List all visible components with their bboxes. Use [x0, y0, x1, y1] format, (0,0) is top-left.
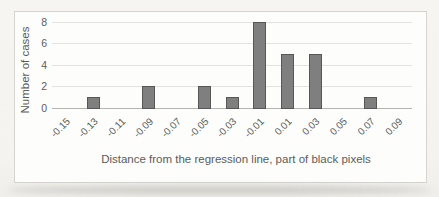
histogram-figure: 02468 -0.15-0.13-0.11-0.09-0.07-0.05-0.0…: [14, 11, 427, 183]
x-tick-label: 0.01: [272, 115, 294, 137]
x-tick-label: 0.09: [383, 115, 405, 137]
bar: [226, 97, 238, 108]
x-tick-label: -0.03: [215, 115, 239, 139]
document-page: 02468 -0.15-0.13-0.11-0.09-0.07-0.05-0.0…: [0, 0, 439, 197]
bar: [281, 54, 293, 108]
bar-chart: 02468 -0.15-0.13-0.11-0.09-0.07-0.05-0.0…: [15, 12, 426, 182]
y-axis-tick-labels: 02468: [41, 16, 47, 114]
bar: [143, 87, 155, 109]
x-tick-label: -0.09: [131, 115, 155, 139]
y-tick-label: 8: [41, 16, 47, 28]
x-tick-label: -0.01: [242, 115, 266, 139]
bar: [88, 97, 100, 108]
bar: [365, 97, 377, 108]
x-tick-label: 0.03: [300, 115, 322, 137]
scan-shadow: [8, 186, 431, 194]
y-tick-label: 4: [41, 59, 47, 71]
x-axis-title: Distance from the regression line, part …: [101, 153, 371, 165]
x-tick-label: -0.07: [159, 115, 183, 139]
y-tick-label: 6: [41, 37, 47, 49]
x-tick-label: 0.07: [355, 115, 377, 137]
x-tick-label: -0.15: [48, 115, 72, 139]
y-axis-title: Number of cases: [19, 26, 31, 113]
y-tick-label: 0: [41, 102, 47, 114]
y-tick-label: 2: [41, 80, 47, 92]
x-tick-label: -0.13: [76, 115, 100, 139]
x-tick-label: -0.05: [187, 115, 211, 139]
x-tick-label: 0.05: [328, 115, 350, 137]
x-axis-tick-labels: -0.15-0.13-0.11-0.09-0.07-0.05-0.03-0.01…: [48, 115, 405, 139]
bar: [198, 87, 210, 109]
bar: [254, 22, 266, 108]
gridlines: [52, 22, 412, 108]
x-tick-label: -0.11: [104, 115, 128, 139]
bar: [309, 54, 321, 108]
